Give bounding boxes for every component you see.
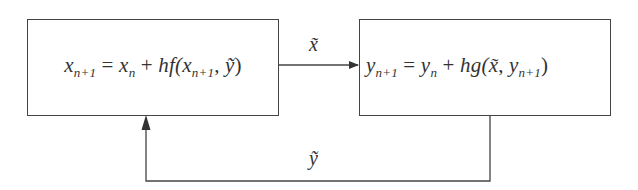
eq-term: x <box>182 53 192 77</box>
eq-term: x̃ <box>489 53 499 77</box>
edge-label-x-tilde: x̃ <box>309 33 318 56</box>
feedback-path-y-tilde <box>146 115 490 181</box>
left-equation-box: xn+1 = xn + hf(xn+1, ỹ) <box>27 19 279 116</box>
eq-term: x <box>119 53 129 77</box>
eq-paren: ) <box>235 53 242 77</box>
right-equation: yn+1 = yn + hg(x̃, yn+1) <box>366 53 548 81</box>
eq-operator: = <box>102 53 114 77</box>
eq-subscript: n+1 <box>519 66 541 81</box>
arrowhead-up-icon <box>142 115 151 130</box>
eq-term: y <box>509 53 519 77</box>
eq-operator: + <box>443 53 455 77</box>
eq-paren: ) <box>541 53 548 77</box>
eq-term: y <box>421 53 431 77</box>
eq-subscript: n+1 <box>376 66 398 81</box>
eq-term: y <box>366 53 376 77</box>
eq-subscript: n <box>430 66 437 81</box>
eq-operator: + <box>141 53 153 77</box>
eq-comma: , <box>214 53 219 77</box>
right-equation-box: yn+1 = yn + hg(x̃, yn+1) <box>359 19 611 116</box>
eq-subscript: n+1 <box>192 66 214 81</box>
eq-subscript: n <box>129 66 136 81</box>
eq-operator: = <box>403 53 415 77</box>
eq-function: hg( <box>460 53 489 77</box>
eq-function: hf( <box>158 53 182 77</box>
edge-label-y-tilde: ỹ <box>309 147 318 170</box>
eq-term: x <box>64 53 74 77</box>
left-equation: xn+1 = xn + hf(xn+1, ỹ) <box>64 53 242 81</box>
eq-subscript: n+1 <box>74 66 96 81</box>
eq-term: ỹ <box>225 53 235 77</box>
eq-comma: , <box>498 53 503 77</box>
